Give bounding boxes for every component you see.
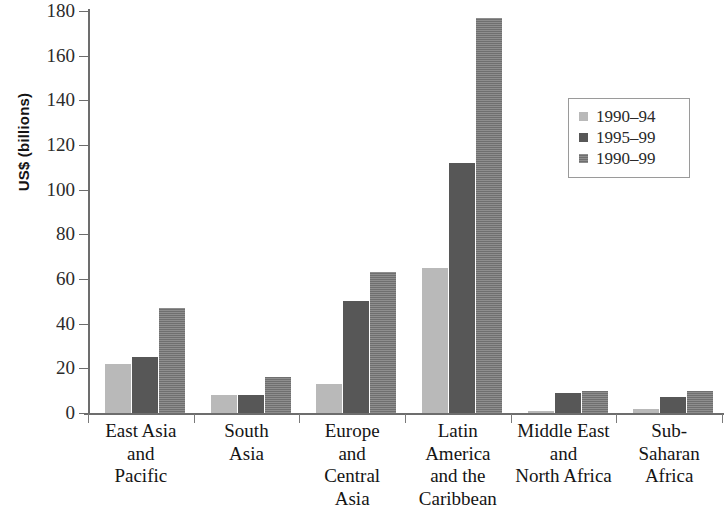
x-axis-label: SouthAsia bbox=[194, 420, 300, 465]
x-tick-mark bbox=[722, 414, 723, 423]
y-tick-label: 100 bbox=[23, 180, 75, 199]
x-axis-label-line: Pacific bbox=[88, 465, 194, 488]
legend-item: 1990–94 bbox=[569, 106, 689, 127]
y-tick-label: 60 bbox=[23, 269, 75, 288]
x-axis-label-line: Latin bbox=[405, 420, 511, 443]
x-axis-label-line: Africa bbox=[616, 465, 722, 488]
bar bbox=[476, 18, 502, 413]
x-axis-label-line: and bbox=[511, 443, 617, 466]
bar bbox=[687, 391, 713, 413]
y-tick-label: 180 bbox=[23, 1, 75, 20]
y-tick-label: 160 bbox=[23, 46, 75, 65]
bar bbox=[633, 409, 659, 413]
bar-group bbox=[316, 11, 396, 413]
bar-group bbox=[211, 11, 291, 413]
bar bbox=[265, 377, 291, 413]
y-tick-mark bbox=[79, 56, 88, 57]
y-tick-mark bbox=[79, 368, 88, 369]
bar bbox=[370, 272, 396, 413]
legend-item: 1995–99 bbox=[569, 127, 689, 148]
bar-chart: US$ (billions) 020406080100120140160180 … bbox=[0, 0, 727, 531]
x-axis-label: Sub-SaharanAfrica bbox=[616, 420, 722, 488]
x-axis-label: EuropeandCentralAsia bbox=[299, 420, 405, 510]
x-axis-label-line: Sub- bbox=[616, 420, 722, 443]
bar bbox=[582, 391, 608, 413]
x-axis-label-line: Europe bbox=[299, 420, 405, 443]
bar bbox=[132, 357, 158, 413]
legend: 1990–94 1995–99 1990–99 bbox=[568, 98, 690, 178]
bar bbox=[238, 395, 264, 413]
legend-swatch-icon bbox=[579, 133, 588, 142]
bar-group bbox=[105, 11, 185, 413]
x-axis-label-line: Caribbean bbox=[405, 488, 511, 511]
legend-item: 1990–99 bbox=[569, 148, 689, 169]
bar bbox=[422, 268, 448, 413]
x-axis-label-line: Asia bbox=[194, 443, 300, 466]
plot-area: 020406080100120140160180 bbox=[88, 11, 722, 413]
bar bbox=[105, 364, 131, 413]
x-axis-label-line: Middle East bbox=[511, 420, 617, 443]
y-axis-line bbox=[88, 9, 90, 415]
legend-label: 1990–94 bbox=[596, 108, 656, 125]
bar bbox=[555, 393, 581, 413]
bar-group bbox=[422, 11, 502, 413]
y-tick-label: 0 bbox=[23, 403, 75, 422]
y-tick-mark bbox=[79, 413, 88, 414]
bar bbox=[449, 163, 475, 413]
x-axis-label-line: and the bbox=[405, 465, 511, 488]
bar bbox=[211, 395, 237, 413]
x-axis-label-line: Asia bbox=[299, 488, 405, 511]
x-axis-label-line: America bbox=[405, 443, 511, 466]
bar bbox=[343, 301, 369, 413]
bar-group bbox=[528, 11, 608, 413]
bar-group bbox=[633, 11, 713, 413]
y-tick-mark bbox=[79, 11, 88, 12]
y-tick-label: 140 bbox=[23, 90, 75, 109]
y-tick-mark bbox=[79, 234, 88, 235]
legend-label: 1990–99 bbox=[596, 150, 656, 167]
x-axis-label-line: East Asia bbox=[88, 420, 194, 443]
legend-swatch-icon bbox=[579, 112, 588, 121]
x-axis-label: East AsiaandPacific bbox=[88, 420, 194, 488]
x-axis-label: Middle EastandNorth Africa bbox=[511, 420, 617, 488]
bar bbox=[159, 308, 185, 413]
bar bbox=[528, 411, 554, 413]
y-tick-label: 120 bbox=[23, 135, 75, 154]
x-axis-line bbox=[84, 413, 724, 415]
x-axis-label: LatinAmericaand theCaribbean bbox=[405, 420, 511, 510]
bar bbox=[316, 384, 342, 413]
x-axis-label-line: North Africa bbox=[511, 465, 617, 488]
y-tick-mark bbox=[79, 279, 88, 280]
x-axis-label-line: South bbox=[194, 420, 300, 443]
x-axis-label-line: Central bbox=[299, 465, 405, 488]
bar bbox=[660, 397, 686, 413]
y-tick-mark bbox=[79, 324, 88, 325]
x-axis-label-line: Saharan bbox=[616, 443, 722, 466]
y-tick-label: 40 bbox=[23, 314, 75, 333]
y-tick-label: 20 bbox=[23, 358, 75, 377]
x-axis-label-line: and bbox=[299, 443, 405, 466]
legend-swatch-icon bbox=[579, 154, 588, 163]
y-tick-mark bbox=[79, 100, 88, 101]
y-tick-mark bbox=[79, 145, 88, 146]
y-tick-mark bbox=[79, 190, 88, 191]
y-tick-label: 80 bbox=[23, 224, 75, 243]
x-axis-label-line: and bbox=[88, 443, 194, 466]
legend-label: 1995–99 bbox=[596, 129, 656, 146]
